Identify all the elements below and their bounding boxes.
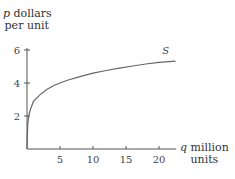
x-tick-label: 5 bbox=[57, 154, 63, 165]
curve-label-s: S bbox=[162, 45, 169, 56]
x-axis-label: q million units bbox=[180, 142, 229, 166]
x-var: q bbox=[180, 141, 187, 154]
x-label-line2: units bbox=[180, 154, 229, 166]
x-tick-label: 20 bbox=[153, 154, 166, 165]
y-ticks: 246 bbox=[14, 45, 30, 122]
x-tick-label: 15 bbox=[120, 154, 133, 165]
supply-curve-s bbox=[27, 61, 176, 149]
y-tick-label: 2 bbox=[14, 111, 20, 122]
y-axis-label: p dollars per unit bbox=[3, 8, 49, 32]
y-tick-label: 4 bbox=[14, 78, 20, 89]
y-label-line2: per unit bbox=[3, 20, 49, 32]
x-tick-label: 10 bbox=[87, 154, 100, 165]
y-tick-label: 6 bbox=[14, 45, 20, 56]
